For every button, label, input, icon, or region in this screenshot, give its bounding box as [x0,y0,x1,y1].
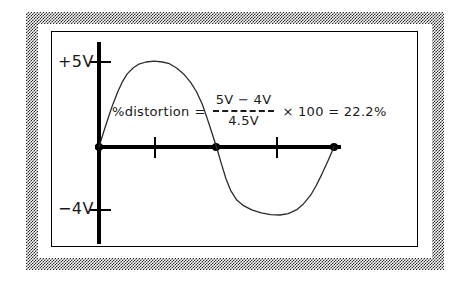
formula-equals-sign: = [195,104,206,119]
formula-denominator: 4.5V [225,114,262,129]
formula-fraction-bar [213,110,275,112]
formula-numerator: 5V − 4V [213,93,275,108]
y-axis-label-negative: −4V [58,199,94,218]
formula-fraction: 5V − 4V 4.5V [213,93,275,129]
distorted-waveform-curve [99,61,334,215]
figure-container: +5V −4V %distortion = 5V − 4V 4.5V × 100… [0,0,461,287]
y-axis-label-positive: +5V [58,52,94,71]
formula-tail-text: × 100 = 22.2% [282,104,386,119]
waveform-plot [51,31,418,247]
distortion-formula: %distortion = 5V − 4V 4.5V × 100 = 22.2% [112,88,387,134]
formula-lead-text: %distortion [112,104,190,119]
